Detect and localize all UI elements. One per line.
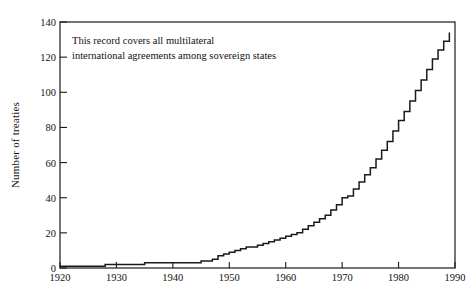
y-axis-title: Number of treaties [9,102,21,188]
y-tick-label: 60 [26,157,56,168]
series-line-cumulative-treaties [60,33,449,267]
y-tick-label: 120 [26,52,56,63]
y-tick-label: 100 [26,87,56,98]
y-tick-label: 140 [26,17,56,28]
chart-figure: Number of treaties 020406080100120140 19… [0,0,472,302]
y-tick-marks [60,22,67,268]
x-tick-label: 1960 [275,272,296,283]
y-axis-title-wrap: Number of treaties [4,0,26,290]
x-axis-tick-labels: 19201930194019501960197019801990 [0,272,472,292]
x-tick-label: 1940 [162,272,183,283]
chart-annotation: This record covers all multilateral inte… [72,33,276,63]
y-tick-label: 40 [26,192,56,203]
x-tick-label: 1930 [106,272,127,283]
x-tick-label: 1920 [50,272,71,283]
x-tick-label: 1950 [219,272,240,283]
x-tick-label: 1980 [388,272,409,283]
data-series-group [60,33,449,267]
y-tick-label: 20 [26,227,56,238]
y-axis-tick-labels: 020406080100120140 [24,0,56,302]
y-tick-label: 80 [26,122,56,133]
x-tick-label: 1970 [332,272,353,283]
x-tick-label: 1990 [445,272,466,283]
